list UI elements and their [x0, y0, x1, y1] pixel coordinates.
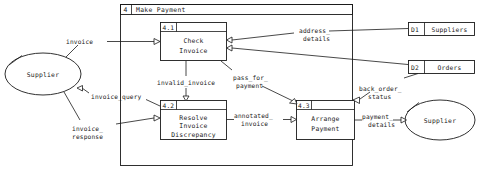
dfd-diagram: 4 Make Payment Supplier Supplier 4.1 Che… — [0, 0, 479, 179]
flow-label-line-1: annotated_ — [234, 112, 273, 120]
boundary-number: 4 — [124, 6, 128, 14]
entity-label: Supplier — [424, 117, 456, 125]
process-name-line-1: Arrange — [311, 115, 339, 123]
datastore-id: D2 — [411, 64, 419, 71]
process-name-line-2: Invoice — [179, 47, 207, 55]
datastore-name: Suppliers — [432, 26, 468, 34]
process-name-line-2: Invoice — [179, 122, 207, 130]
process-number: 4.1 — [163, 24, 175, 31]
process-name-line-1: Resolve — [179, 114, 207, 122]
flow-label-line-2: details — [368, 121, 395, 128]
process-4-1-check-invoice[interactable]: 4.1 Check Invoice — [161, 23, 227, 61]
entity-label: Supplier — [27, 71, 59, 79]
process-name-line-3: Discrepancy — [171, 131, 216, 139]
flow-back-order-status[interactable]: back_order_ status — [353, 74, 418, 104]
external-entity-supplier-left[interactable]: Supplier — [5, 53, 81, 95]
flow-label-line-2: status — [368, 93, 391, 100]
external-entity-supplier-right[interactable]: Supplier — [405, 100, 475, 140]
flow-label-line-1: back_order_ — [359, 85, 402, 93]
flow-invoice-query[interactable]: invoice_query — [77, 86, 160, 107]
flow-orders-to-check-invoice[interactable] — [227, 45, 409, 65]
flow-label-line-2: details — [303, 35, 330, 42]
dfd-canvas: 4 Make Payment Supplier Supplier 4.1 Che… — [0, 0, 479, 179]
flow-label-line-1: pass_for_ — [233, 74, 268, 82]
flow-pass-for-payment[interactable]: pass_for_ payment — [221, 61, 297, 104]
flow-invalid-invoice[interactable]: invalid_invoice — [157, 61, 215, 101]
flow-label-line-2: payment — [236, 82, 263, 90]
flow-annotated-invoice[interactable]: annotated_ invoice — [227, 112, 297, 127]
flow-label: invalid_invoice — [157, 79, 215, 87]
flow-payment-details[interactable]: payment_ details — [355, 113, 407, 128]
process-name-line-1: Check — [183, 37, 203, 45]
flow-label-line-2: invoice — [241, 120, 268, 127]
flow-address-details[interactable]: address_ details — [227, 27, 409, 43]
flow-label-line-1: invoice_ — [72, 125, 103, 133]
flow-label: invoice_query — [91, 93, 142, 101]
process-number: 4.2 — [163, 102, 175, 109]
flow-invoice[interactable]: invoice — [66, 38, 160, 57]
flow-label: invoice — [66, 38, 93, 45]
flow-label-line-1: address_ — [299, 27, 330, 35]
boundary-title: 4 Make Payment — [124, 6, 186, 14]
datastore-id: D1 — [411, 26, 419, 33]
flow-label-line-1: payment_ — [362, 113, 393, 121]
datastore-name: Orders — [438, 64, 462, 71]
datastore-d1-suppliers[interactable]: D1 Suppliers — [409, 23, 475, 36]
process-number: 4.3 — [298, 102, 310, 109]
process-4-2-resolve-invoice-discrepancy[interactable]: 4.2 Resolve Invoice Discrepancy — [161, 101, 227, 140]
datastore-d2-orders[interactable]: D2 Orders — [409, 61, 475, 74]
process-name-line-2: Payment — [311, 125, 339, 133]
flow-label-line-2: response — [72, 133, 103, 141]
process-4-3-arrange-payment[interactable]: 4.3 Arrange Payment — [297, 101, 355, 140]
boundary-label: Make Payment — [136, 6, 186, 14]
